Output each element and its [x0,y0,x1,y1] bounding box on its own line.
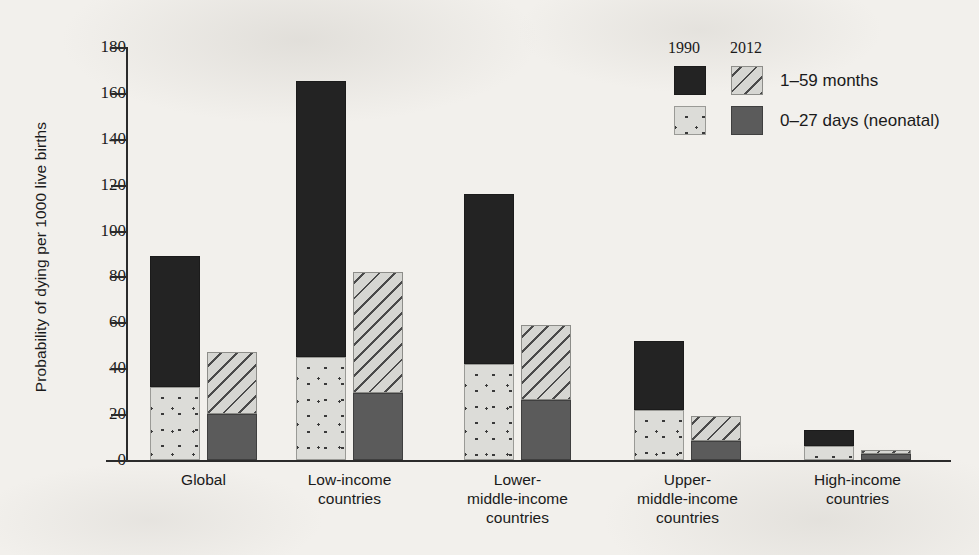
x-label-line: countries [768,489,948,508]
bar-segment-1990-months[interactable] [296,81,346,356]
y-axis-title: Probability of dying per 1000 live birth… [32,92,50,422]
bar-segment-1990-neonatal[interactable] [634,410,684,460]
x-label-line: middle-income [598,489,778,508]
bar-segment-2012-months[interactable] [861,450,911,455]
stacked-bar-chart: 020406080100120140160180 Probability of … [0,0,979,555]
legend-swatch-2012-neonatal [731,106,763,135]
bar-segment-1990-neonatal[interactable] [804,446,854,460]
bar-segment-2012-months[interactable] [207,352,257,414]
bar-segment-1990-neonatal[interactable] [464,364,514,460]
legend-swatch-1990-neonatal [674,106,706,135]
bar-segment-2012-neonatal[interactable] [521,400,571,460]
x-label-line: countries [598,508,778,527]
bar-segment-2012-neonatal[interactable] [861,454,911,460]
bar-segment-1990-months[interactable] [150,256,200,387]
bar-segment-1990-months[interactable] [634,341,684,410]
bar-segment-1990-months[interactable] [804,430,854,446]
bar-segment-2012-months[interactable] [353,272,403,394]
y-tick-mark [111,231,126,233]
legend-header-2012: 2012 [730,40,762,56]
x-label-line: middle-income [428,489,608,508]
x-label-line: Low-income [260,470,440,489]
x-label-lower-middle-income-countries: Lower-middle-incomecountries [428,470,608,527]
bar-group [150,47,257,460]
x-label-line: Lower- [428,470,608,489]
x-axis-line [106,460,951,462]
x-label-high-income-countries: High-incomecountries [768,470,948,508]
bar-segment-2012-neonatal[interactable] [691,441,741,461]
bar-group [464,47,571,460]
x-label-line: Upper- [598,470,778,489]
legend-label-months: 1–59 months [780,66,878,95]
bar-segment-1990-neonatal[interactable] [150,387,200,460]
y-tick-mark [111,185,126,187]
x-label-low-income-countries: Low-incomecountries [260,470,440,508]
legend-header-1990: 1990 [668,40,700,56]
y-tick-mark [111,276,126,278]
x-label-upper-middle-income-countries: Upper-middle-incomecountries [598,470,778,527]
legend-swatch-1990-months [674,66,706,95]
bar-segment-2012-neonatal[interactable] [353,393,403,460]
legend-label-neonatal: 0–27 days (neonatal) [780,106,940,135]
x-label-line: countries [260,489,440,508]
y-tick-mark [111,93,126,95]
y-tick-mark [111,368,126,370]
legend-swatch-2012-months [731,66,763,95]
bar-segment-2012-months[interactable] [691,416,741,440]
bar-segment-1990-neonatal[interactable] [296,357,346,460]
y-tick-mark [111,414,126,416]
bar-group [296,47,403,460]
y-tick-mark [111,139,126,141]
x-label-line: countries [428,508,608,527]
bar-segment-1990-months[interactable] [464,194,514,364]
y-tick-mark [111,47,126,49]
y-tick-mark [111,322,126,324]
bar-segment-2012-neonatal[interactable] [207,414,257,460]
y-tick-mark [111,460,126,462]
bar-segment-2012-months[interactable] [521,325,571,401]
x-label-line: High-income [768,470,948,489]
